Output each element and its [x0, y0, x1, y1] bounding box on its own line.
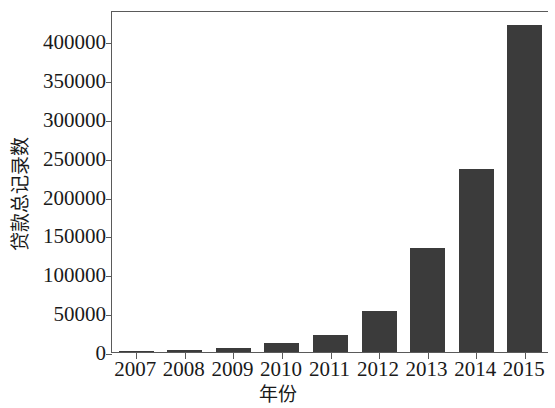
bar-2011 — [313, 335, 348, 352]
y-tick-mark — [106, 237, 112, 238]
y-tick-label: 50000 — [54, 302, 107, 327]
y-tick-label: 250000 — [43, 146, 106, 171]
y-axis-title: 贷款总记录数 — [5, 99, 32, 289]
y-tick-mark — [106, 276, 112, 277]
y-tick-mark — [106, 160, 112, 161]
y-tick-label: 0 — [96, 341, 107, 366]
plot-area — [111, 11, 548, 353]
bar-2013 — [410, 248, 445, 352]
y-tick-label: 150000 — [43, 224, 106, 249]
y-tick-mark — [106, 82, 112, 83]
bar-2010 — [264, 343, 299, 352]
y-tick-mark — [106, 199, 112, 200]
y-tick-label: 400000 — [43, 30, 106, 55]
y-tick-label: 200000 — [43, 185, 106, 210]
bar-2007 — [119, 351, 154, 352]
y-tick-label: 350000 — [43, 68, 106, 93]
bar-2008 — [167, 350, 202, 352]
y-tick-mark — [106, 354, 112, 355]
y-tick-label: 100000 — [43, 263, 106, 288]
y-tick-label: 300000 — [43, 107, 106, 132]
y-tick-mark — [106, 43, 112, 44]
bar-2015 — [507, 25, 542, 352]
y-tick-mark — [106, 121, 112, 122]
bar-2009 — [216, 348, 251, 352]
bar-2012 — [362, 311, 397, 352]
chart-figure: 贷款总记录数 050000100000150000200000250000300… — [0, 0, 555, 408]
y-tick-mark — [106, 315, 112, 316]
bar-2014 — [459, 169, 494, 352]
x-axis-title: 年份 — [0, 379, 555, 406]
